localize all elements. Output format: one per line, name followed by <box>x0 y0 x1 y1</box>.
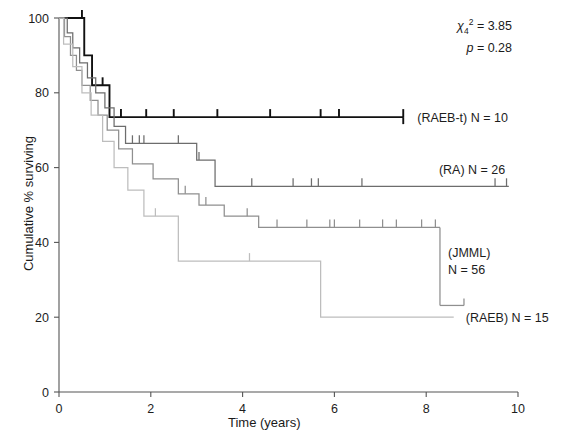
series-label-jmml-line1: (JMML) <box>448 246 490 260</box>
p-value: = 0.28 <box>477 41 512 55</box>
chart-canvas: 0204060801000246810(RAEB-t) N = 10(RA) N… <box>0 0 572 442</box>
series-raeb <box>59 18 454 317</box>
x-axis-label: Time (years) <box>228 415 300 430</box>
x-tick-label: 0 <box>56 402 63 416</box>
survival-curve <box>59 18 454 317</box>
series-label-jmml-line2: N = 56 <box>448 263 485 277</box>
y-tick-label: 80 <box>35 86 49 100</box>
chi-subscript: 4 <box>464 26 469 36</box>
y-axis-label: Cumulative % surviving <box>21 114 36 294</box>
kaplan-meier-chart: 0204060801000246810(RAEB-t) N = 10(RA) N… <box>0 0 572 442</box>
y-tick-label: 20 <box>35 311 49 325</box>
survival-curve <box>59 18 403 117</box>
chi-square-line: χ42 = 3.85 <box>402 14 512 40</box>
x-tick-label: 6 <box>331 402 338 416</box>
p-symbol: p <box>466 41 473 55</box>
y-tick-label: 0 <box>42 386 49 400</box>
series-raeb-t <box>59 10 403 117</box>
chi-symbol: χ <box>457 19 464 33</box>
series-label-raeb: (RAEB) N = 15 <box>466 311 549 325</box>
x-tick-label: 4 <box>239 402 246 416</box>
y-tick-label: 60 <box>35 161 49 175</box>
x-tick-label: 8 <box>423 402 430 416</box>
chi-value: = 3.85 <box>477 19 512 33</box>
series-jmml <box>59 18 440 227</box>
series-label-ra: (RA) N = 26 <box>439 163 505 177</box>
x-tick-label: 2 <box>147 402 154 416</box>
survival-curve <box>59 18 440 227</box>
chi-superscript: 2 <box>469 17 474 27</box>
x-tick-label: 10 <box>511 402 525 416</box>
y-tick-label: 100 <box>28 12 49 26</box>
series-label-raeb-t: (RAEB-t) N = 10 <box>417 111 508 125</box>
statistics-annotation: χ42 = 3.85 p = 0.28 <box>402 14 512 57</box>
p-value-line: p = 0.28 <box>402 40 512 57</box>
y-tick-label: 40 <box>35 236 49 250</box>
